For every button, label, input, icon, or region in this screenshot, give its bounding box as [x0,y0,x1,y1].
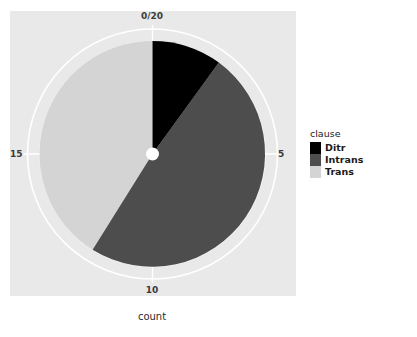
legend: clause Ditr Intrans Trans [310,128,363,178]
legend-title: clause [310,128,363,140]
axis-title-count: count [0,311,304,323]
axis-tick-0-20: 0/20 [0,11,304,22]
legend-label-trans: Trans [325,166,354,178]
center-dot [146,148,159,161]
legend-label-ditr: Ditr [325,142,345,154]
legend-label-intrans: Intrans [325,154,363,166]
axis-tick-10: 10 [0,285,304,296]
legend-swatch-trans [310,166,321,178]
legend-swatch-intrans [310,154,321,166]
axis-tick-15: 15 [10,149,23,160]
legend-swatch-ditr [310,142,321,154]
polar-pie-chart: 0/20 5 10 15 count clause Ditr Intrans T… [0,0,417,337]
legend-item-trans[interactable]: Trans [310,166,363,178]
axis-tick-5: 5 [278,149,284,160]
legend-item-intrans[interactable]: Intrans [310,154,363,166]
legend-item-ditr[interactable]: Ditr [310,142,363,154]
